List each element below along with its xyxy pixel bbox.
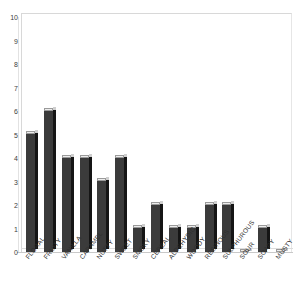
x-axis: FLORALFRUITYVANILLACARAMELNUTTYSWEETSMOK… [0, 0, 299, 305]
x-axis-tick-label: MUSTY [274, 237, 294, 260]
x-axis-tick-label: SOAPY [256, 238, 276, 261]
bar-chart: 012345678910 FLORALFRUITYVANILLACARAMELN… [0, 0, 299, 305]
x-axis-tick-label: SMOKY [131, 237, 152, 261]
x-axis-tick-label: NUTTY [95, 238, 114, 260]
x-axis-tick-label: SWEET [113, 237, 133, 260]
x-axis-tick-label: SOUR [238, 241, 256, 261]
